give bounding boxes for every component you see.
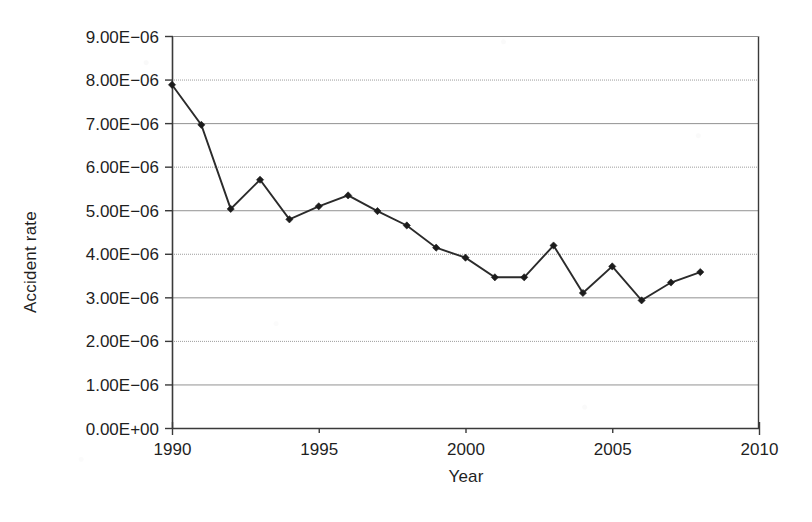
x-axis-tick-label: 1995 — [300, 440, 338, 459]
y-axis-tick-label: 8.00E−06 — [86, 71, 159, 90]
data-point-marker — [374, 207, 381, 214]
data-point-marker — [315, 203, 322, 210]
y-axis-tick-label: 1.00E−06 — [86, 376, 159, 395]
x-axis-tick-label: 2000 — [447, 440, 485, 459]
y-axis-title: Accident rate — [21, 192, 41, 332]
y-axis-tick-label: 2.00E−06 — [86, 332, 159, 351]
data-point-marker — [345, 192, 352, 199]
y-axis-tick-label: 6.00E−06 — [86, 158, 159, 177]
x-axis-tick-label: 1990 — [154, 440, 192, 459]
x-axis-title: Year — [396, 467, 536, 487]
y-axis-tick-label: 4.00E−06 — [86, 245, 159, 264]
x-axis-tick-label: 2010 — [741, 440, 779, 459]
y-axis-tick-label: 3.00E−06 — [86, 289, 159, 308]
y-axis-tick-label: 9.00E−06 — [86, 28, 159, 47]
data-point-marker — [697, 268, 704, 275]
y-axis-tick-label: 0.00E+00 — [86, 420, 159, 439]
line-chart-plot: 9.00E−068.00E−067.00E−066.00E−065.00E−06… — [0, 0, 812, 522]
x-axis-tick-label: 2005 — [594, 440, 632, 459]
chart-figure: 9.00E−068.00E−067.00E−066.00E−065.00E−06… — [0, 0, 812, 522]
data-series-line — [172, 85, 700, 301]
y-axis-tick-label: 7.00E−06 — [86, 115, 159, 134]
y-axis-tick-label: 5.00E−06 — [86, 202, 159, 221]
